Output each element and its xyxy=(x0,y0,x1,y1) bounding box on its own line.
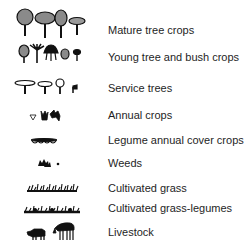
legend-label: Cultivated grass xyxy=(108,182,187,195)
legend-label: Young tree and bush crops xyxy=(108,51,239,64)
legend-label: Mature tree crops xyxy=(108,24,194,37)
land-use-legend: Mature tree crops Young tree and bush cr… xyxy=(0,0,250,252)
legend-label: Cultivated grass-legumes xyxy=(108,202,232,215)
legend-label: Livestock xyxy=(108,226,154,239)
livestock-icon xyxy=(0,0,100,252)
legend-label: Annual crops xyxy=(108,109,172,122)
legend-label: Weeds xyxy=(108,157,142,170)
legend-label: Legume annual cover crops xyxy=(108,134,244,147)
legend-label: Service trees xyxy=(108,82,172,95)
